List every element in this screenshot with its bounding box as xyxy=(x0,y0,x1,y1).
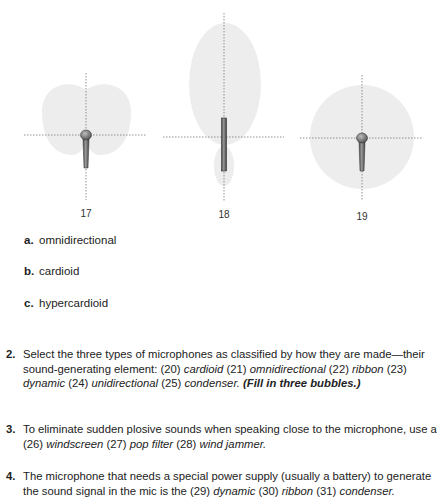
figure-label-17: 17 xyxy=(80,208,91,219)
option-30: (30) ribbon xyxy=(259,485,314,497)
choice-text: omnidirectional xyxy=(39,234,116,246)
choice-b: b.cardioid xyxy=(24,265,79,277)
figure-label-18: 18 xyxy=(218,209,229,220)
option-22: (22) ribbon xyxy=(329,363,384,375)
choice-text: cardioid xyxy=(39,265,79,277)
question-number: 4. xyxy=(6,469,15,484)
ribbon-mic-icon xyxy=(222,118,227,171)
question-number: 2. xyxy=(6,347,15,362)
choice-letter: b. xyxy=(24,265,39,277)
option-21: (21) omnidirectional xyxy=(226,363,325,375)
choice-a: a.omnidirectional xyxy=(24,234,116,246)
option-25: (25) condenser. xyxy=(161,377,240,389)
option-31: (31) condenser. xyxy=(316,485,395,497)
option-26: (26) windscreen xyxy=(23,438,103,450)
question-4: 4. The microphone that needs a special p… xyxy=(6,469,438,497)
option-27: (27) pop filter xyxy=(107,438,174,450)
option-20: (20) cardioid xyxy=(161,363,224,375)
instruction: (Fill in three bubbles.) xyxy=(243,377,360,389)
choice-letter: c. xyxy=(24,297,39,309)
option-29: (29) dynamic xyxy=(190,485,255,497)
figure-19-omnidirectional xyxy=(300,75,423,200)
choice-text: hypercardioid xyxy=(39,297,108,309)
option-28: (28) wind jammer. xyxy=(176,438,266,450)
figure-17-cardioid xyxy=(24,73,147,200)
choice-letter: a. xyxy=(24,234,39,246)
question-number: 3. xyxy=(6,422,15,437)
question-prefix: To eliminate sudden plosive sounds when … xyxy=(23,423,437,435)
option-24: (24) unidirectional xyxy=(68,377,158,389)
pickup-pattern-diagrams xyxy=(0,0,444,225)
figure-18-hypercardioid xyxy=(163,13,284,202)
question-2: 2. Select the three types of microphones… xyxy=(6,347,438,391)
question-3: 3. To eliminate sudden plosive sounds wh… xyxy=(6,422,438,451)
choice-c: c.hypercardioid xyxy=(24,297,108,309)
figure-label-19: 19 xyxy=(356,211,367,222)
